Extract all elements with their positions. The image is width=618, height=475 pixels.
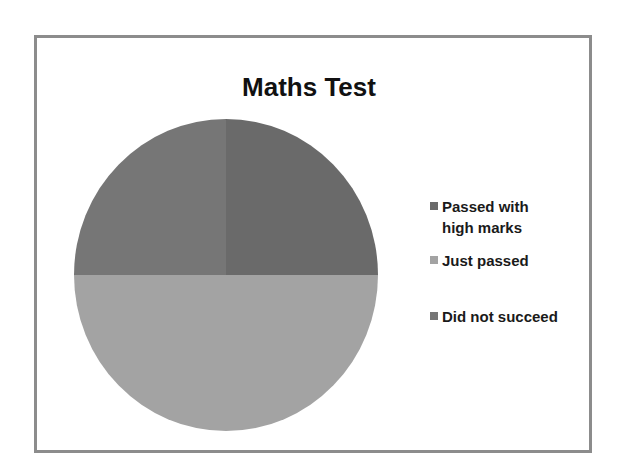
legend-label-just-passed: Just passed	[442, 250, 582, 271]
legend-swatch-passed-high-marks	[430, 202, 438, 210]
legend-label-did-not-succeed: Did not succeed	[442, 306, 582, 327]
legend-swatch-just-passed	[430, 256, 438, 264]
legend-item-passed-high-marks: Passed withhigh marks	[430, 196, 582, 238]
legend-label-passed-high-marks: Passed withhigh marks	[442, 196, 582, 238]
legend-swatch-did-not-succeed	[430, 312, 438, 320]
legend-item-did-not-succeed: Did not succeed	[430, 306, 582, 327]
pie-slices	[74, 119, 378, 431]
legend-item-just-passed: Just passed	[430, 250, 582, 271]
pie-slice-passed-with-high-marks	[226, 119, 378, 275]
pie-slice-did-not-succeed	[74, 119, 226, 275]
pie-slice-just-passed	[74, 275, 378, 431]
